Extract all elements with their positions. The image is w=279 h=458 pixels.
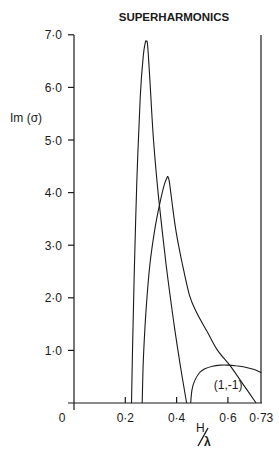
x-axis-label-numerator: H: [196, 421, 205, 435]
series-curve-2: [142, 176, 256, 403]
series-curve-1: [132, 41, 187, 403]
superharmonics-chart: SUPERHARMONICS 1·02·03·04·05·06·07·0 0·2…: [0, 0, 279, 458]
y-axis-label: Im (σ): [10, 111, 42, 125]
y-tick-label: 5·0: [45, 134, 63, 148]
curve-annotation-1-minus-1: (1,-1): [214, 378, 243, 392]
origin-label: 0: [59, 411, 66, 425]
y-ticks: 1·02·03·04·05·06·07·0: [45, 28, 74, 358]
curves: [132, 41, 262, 403]
y-axis-label-text: Im (σ): [10, 111, 42, 125]
x-tick-label: 0·4: [168, 411, 186, 425]
x-ticks: 0·20·40·60·730: [59, 397, 274, 425]
y-tick-label: 1·0: [45, 344, 63, 358]
x-axis-label-denominator: λ: [204, 435, 211, 449]
y-tick-label: 7·0: [45, 28, 63, 42]
axes: [68, 35, 262, 410]
x-axis-label: H λ: [196, 421, 211, 449]
y-tick-label: 3·0: [45, 239, 63, 253]
x-tick-label: 0·73: [249, 411, 273, 425]
y-tick-label: 4·0: [45, 186, 63, 200]
x-tick-label: 0·6: [219, 411, 237, 425]
y-tick-label: 2·0: [45, 291, 63, 305]
chart-title: SUPERHARMONICS: [119, 11, 230, 23]
x-tick-label: 0·2: [117, 411, 135, 425]
y-tick-label: 6·0: [45, 81, 63, 95]
